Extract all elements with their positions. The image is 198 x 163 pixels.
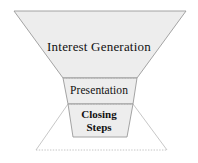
projection-right-edge bbox=[133, 104, 167, 150]
projection-left-edge bbox=[36, 104, 68, 150]
stage-shape-presentation bbox=[63, 78, 137, 104]
funnel-diagram: Interest Generation Presentation Closing… bbox=[0, 0, 198, 163]
stage-shape-interest-generation bbox=[14, 11, 186, 78]
funnel-graphic bbox=[0, 0, 198, 163]
stage-shape-closing-steps bbox=[68, 104, 133, 137]
